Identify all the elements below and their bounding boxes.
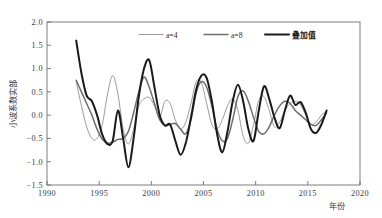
legend-label-a4: a=4 xyxy=(166,31,178,40)
chart-canvas: 2.01.51.00.50.0−0.5−1.0−1.5 199019952000… xyxy=(0,0,382,218)
series-lines xyxy=(76,41,326,168)
y-axis-ticks xyxy=(47,22,51,185)
legend-label-a8: a=8 xyxy=(231,31,243,40)
y-tick-label: −1.0 xyxy=(27,158,43,167)
y-axis-tick-labels: 2.01.51.00.50.0−0.5−1.0−1.5 xyxy=(27,18,43,190)
legend: a=4 a=8 叠加值 xyxy=(139,30,316,40)
x-tick-label: 2010 xyxy=(247,189,265,198)
y-tick-label: 1.5 xyxy=(32,41,43,50)
x-axis-tick-labels: 1990199520002005201020152020 xyxy=(38,189,369,198)
x-axis-title: 年份 xyxy=(329,201,345,211)
wavelet-coefficient-chart: 2.01.51.00.50.0−0.5−1.0−1.5 199019952000… xyxy=(0,0,382,218)
x-tick-label: 2015 xyxy=(299,189,317,198)
y-tick-label: −0.5 xyxy=(27,134,43,143)
y-axis-title: 小波系数实部 xyxy=(8,80,18,128)
y-tick-label: 2.0 xyxy=(32,18,43,27)
x-tick-label: 2005 xyxy=(195,189,213,198)
x-tick-label: 2020 xyxy=(351,189,369,198)
x-tick-label: 1995 xyxy=(90,189,108,198)
x-tick-label: 1990 xyxy=(38,189,56,198)
x-tick-label: 2000 xyxy=(142,189,160,198)
y-tick-label: 1.0 xyxy=(32,64,43,73)
y-tick-label: 0.5 xyxy=(32,88,43,97)
x-axis-ticks xyxy=(47,181,360,185)
legend-label-overlay: 叠加值 xyxy=(292,30,316,40)
y-tick-label: 0.0 xyxy=(32,111,43,120)
